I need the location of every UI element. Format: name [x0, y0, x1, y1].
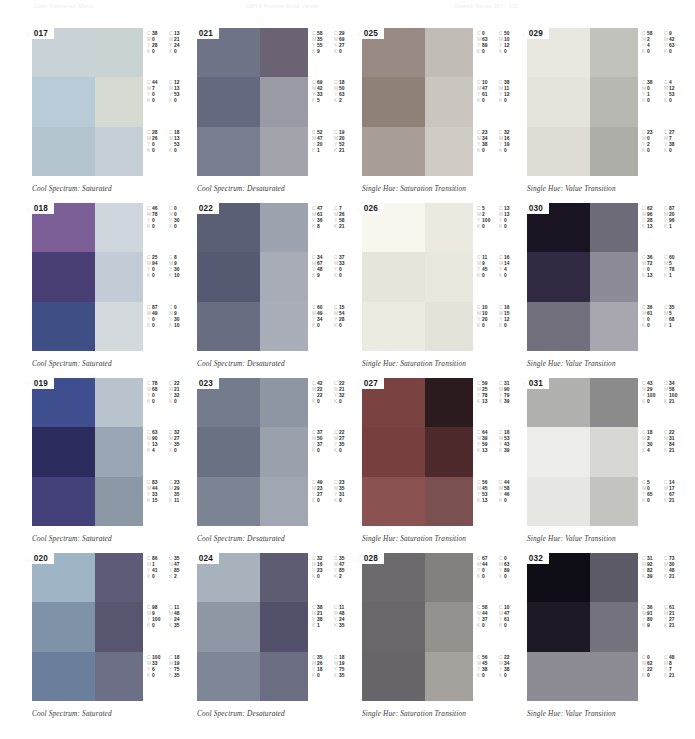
color-swatch[interactable]: [95, 302, 143, 351]
color-swatch[interactable]: [425, 302, 473, 351]
card-number-label: 028: [363, 553, 381, 564]
swatch-card[interactable]: ::020C86M1Y41K0C35M47Y85K2C98M9Y100K0C11…: [25, 553, 190, 728]
color-swatch[interactable]: [197, 427, 260, 476]
swatch-card[interactable]: ::021C58M35Y55K9C29M69Y27K0C69M42Y33K5C1…: [190, 28, 355, 203]
color-swatch[interactable]: [32, 652, 95, 701]
color-swatch[interactable]: [32, 602, 95, 651]
color-swatch[interactable]: [260, 28, 308, 77]
color-swatch[interactable]: [590, 302, 638, 351]
color-swatch[interactable]: [362, 127, 425, 176]
color-swatch[interactable]: [425, 652, 473, 701]
color-swatch[interactable]: [197, 652, 260, 701]
color-swatch[interactable]: [590, 378, 638, 427]
color-swatch[interactable]: [197, 252, 260, 301]
color-swatch[interactable]: [362, 477, 425, 526]
swatch-card[interactable]: ::019C78M68Y0K0C22M21Y32K0C63M90Y13K4C32…: [25, 378, 190, 553]
color-swatch[interactable]: [362, 252, 425, 301]
color-swatch[interactable]: [425, 77, 473, 126]
color-swatch[interactable]: [425, 553, 473, 602]
color-swatch[interactable]: [425, 252, 473, 301]
color-swatch[interactable]: [260, 302, 308, 351]
color-swatch[interactable]: [260, 252, 308, 301]
color-swatch[interactable]: [32, 477, 95, 526]
color-swatch[interactable]: [32, 427, 95, 476]
swatch-card[interactable]: ::031C43M29Y100K0C34M58Y100K21C18M2Y30K4…: [520, 378, 685, 553]
color-swatch[interactable]: [260, 378, 308, 427]
cmyk-channel-value: 24: [174, 617, 180, 622]
color-swatch[interactable]: [527, 602, 590, 651]
swatch-card[interactable]: ::029C58M2Y4K0C9M42Y63K0C38M0Y1K0C4M12Y5…: [520, 28, 685, 203]
color-swatch[interactable]: [590, 203, 638, 252]
color-swatch[interactable]: [95, 28, 143, 77]
color-swatch[interactable]: [527, 77, 590, 126]
color-swatch[interactable]: [197, 302, 260, 351]
color-swatch[interactable]: [425, 127, 473, 176]
color-swatch[interactable]: [32, 302, 95, 351]
color-swatch[interactable]: [362, 427, 425, 476]
color-swatch[interactable]: [590, 252, 638, 301]
color-swatch[interactable]: [425, 477, 473, 526]
color-swatch[interactable]: [197, 602, 260, 651]
color-swatch[interactable]: [260, 127, 308, 176]
color-swatch[interactable]: [260, 427, 308, 476]
color-swatch[interactable]: [590, 28, 638, 77]
color-swatch[interactable]: [590, 553, 638, 602]
color-swatch[interactable]: [197, 77, 260, 126]
color-swatch[interactable]: [260, 77, 308, 126]
swatch-card[interactable]: ::030C62M96Y28K13C87M20Y96K1C36M72Y0K13C…: [520, 203, 685, 378]
color-swatch[interactable]: [197, 477, 260, 526]
color-swatch[interactable]: [590, 602, 638, 651]
color-swatch[interactable]: [527, 652, 590, 701]
color-swatch[interactable]: [362, 652, 425, 701]
color-swatch[interactable]: [95, 602, 143, 651]
color-swatch[interactable]: [197, 127, 260, 176]
color-swatch[interactable]: [362, 302, 425, 351]
color-swatch[interactable]: [590, 652, 638, 701]
color-swatch[interactable]: [95, 252, 143, 301]
swatch-card[interactable]: ::025C0M63Y89K0C50M10Y12K0C10M47Y61K0C38…: [355, 28, 520, 203]
color-swatch[interactable]: [95, 203, 143, 252]
color-swatch[interactable]: [527, 427, 590, 476]
color-swatch[interactable]: [260, 203, 308, 252]
color-swatch[interactable]: [425, 378, 473, 427]
color-swatch[interactable]: [527, 302, 590, 351]
swatch-card[interactable]: ::023C42M22Y22K0C22M21Y32K0C37M50Y37K0C2…: [190, 378, 355, 553]
swatch-card[interactable]: ::017C38M0Y28K0C13M21Y24K0C44M7Y0K0C12M1…: [25, 28, 190, 203]
swatch-card[interactable]: ::018C46M78Y0K0C0M0Y30K0C25M94Y0K0C8M9Y3…: [25, 203, 190, 378]
color-swatch[interactable]: [590, 427, 638, 476]
color-swatch[interactable]: [260, 477, 308, 526]
color-swatch[interactable]: [95, 77, 143, 126]
swatch-card[interactable]: ::027C59M25Y78K13C31M90Y79K39C64M39Y59K1…: [355, 378, 520, 553]
color-swatch[interactable]: [425, 427, 473, 476]
color-swatch[interactable]: [362, 77, 425, 126]
color-swatch[interactable]: [425, 602, 473, 651]
color-swatch[interactable]: [590, 77, 638, 126]
swatch-card[interactable]: ::032C31M92Y82K39C73M30Y48K21C36M91Y80K9…: [520, 553, 685, 728]
color-swatch[interactable]: [95, 378, 143, 427]
color-swatch[interactable]: [32, 252, 95, 301]
color-swatch[interactable]: [260, 602, 308, 651]
color-swatch[interactable]: [95, 652, 143, 701]
swatch-card[interactable]: ::024C32M16Y23K0C35M47Y85K2C38M21Y38K1C1…: [190, 553, 355, 728]
color-swatch[interactable]: [260, 553, 308, 602]
swatch-card[interactable]: ::026C5M2Y100K0C13M13Y0K0C11M9Y45K0C16M1…: [355, 203, 520, 378]
swatch-card[interactable]: ::022C47M61Y36K8C7M26Y58K21C34M67Y48K9C3…: [190, 203, 355, 378]
swatch-card[interactable]: ::028C67M44Y0K0C0M63Y89K0C58M44Y37K0C10M…: [355, 553, 520, 728]
color-swatch[interactable]: [527, 252, 590, 301]
color-swatch[interactable]: [362, 602, 425, 651]
color-swatch[interactable]: [527, 127, 590, 176]
color-swatch[interactable]: [32, 77, 95, 126]
color-swatch[interactable]: [527, 477, 590, 526]
color-swatch[interactable]: [95, 477, 143, 526]
cmyk-channel-value: 49: [317, 311, 323, 316]
color-swatch[interactable]: [590, 477, 638, 526]
cmyk-channel-value: 58: [339, 218, 345, 223]
color-swatch[interactable]: [590, 127, 638, 176]
color-swatch[interactable]: [95, 127, 143, 176]
color-swatch[interactable]: [95, 427, 143, 476]
color-swatch[interactable]: [32, 127, 95, 176]
color-swatch[interactable]: [425, 203, 473, 252]
color-swatch[interactable]: [260, 652, 308, 701]
color-swatch[interactable]: [425, 28, 473, 77]
color-swatch[interactable]: [95, 553, 143, 602]
